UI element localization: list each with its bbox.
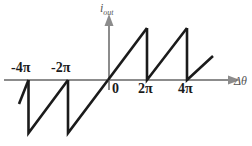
y-axis-label: iout (100, 2, 114, 17)
x-tick-label-neg-4pi: -4π (11, 61, 30, 75)
plot-canvas (0, 0, 252, 146)
x-tick-label-4pi: 4π (178, 82, 193, 96)
x-tick-label-origin: 0 (112, 82, 119, 96)
x-tick-label-neg-2pi: -2π (51, 61, 70, 75)
y-axis-label-subscript: out (103, 8, 113, 17)
sawtooth-figure: -4π -2π 0 2π 4π iout Δθ (0, 0, 252, 146)
x-axis-label: Δθ (234, 75, 247, 87)
x-tick-label-2pi: 2π (138, 82, 153, 96)
